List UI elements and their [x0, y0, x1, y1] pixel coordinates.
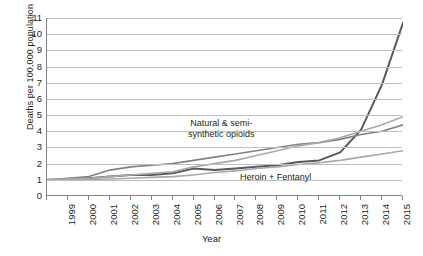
x-axis-title: Year	[0, 233, 423, 244]
y-axis-tick-label: 2	[26, 159, 42, 169]
gridline	[47, 147, 402, 148]
x-axis-tick-mark	[381, 196, 382, 200]
y-axis-tick-label: 11	[26, 13, 42, 23]
x-axis-tick-mark	[172, 196, 173, 200]
annotation-heroin-fentanyl: Heroin + Fentanyl	[240, 172, 311, 183]
y-axis-tick-label: 3	[26, 143, 42, 153]
x-axis-tick-mark	[276, 196, 277, 200]
x-axis-tick-mark	[234, 196, 235, 200]
x-axis-tick-mark	[151, 196, 152, 200]
y-axis-tick-label: 7	[26, 78, 42, 88]
gridline	[47, 50, 402, 51]
x-axis-tick-mark	[318, 196, 319, 200]
x-axis-tick-mark	[402, 196, 403, 200]
gridline	[47, 180, 402, 181]
x-axis-tick-mark	[88, 196, 89, 200]
y-axis-tick-label: 1	[26, 175, 42, 185]
y-axis-tick-label: 6	[26, 94, 42, 104]
x-axis-tick-mark	[193, 196, 194, 200]
y-axis-tick-label: 4	[26, 127, 42, 137]
x-axis-tick-mark	[255, 196, 256, 200]
x-axis-tick-mark	[360, 196, 361, 200]
x-axis-tick-mark	[214, 196, 215, 200]
gridline	[47, 83, 402, 84]
y-axis-tick-label: 9	[26, 46, 42, 56]
y-axis-tick-label: 10	[26, 29, 42, 39]
chart-container: Deaths per 100,000 population 1110987654…	[0, 0, 423, 256]
plot-area	[46, 18, 402, 196]
x-axis-tick-mark	[46, 196, 47, 200]
gridline	[47, 34, 402, 35]
gridline	[47, 164, 402, 165]
x-axis-tick-mark	[297, 196, 298, 200]
x-axis-tick-mark	[67, 196, 68, 200]
gridline	[47, 18, 402, 19]
annotation-natural-line1: Natural & semi-	[188, 118, 255, 129]
y-axis-tick-label: 5	[26, 110, 42, 120]
x-axis-tick-mark	[109, 196, 110, 200]
series-lines	[47, 18, 403, 196]
y-axis-tick-label: 8	[26, 62, 42, 72]
gridline	[47, 99, 402, 100]
annotation-natural-line2: synthetic opioids	[188, 129, 255, 140]
x-axis-tick-mark	[130, 196, 131, 200]
annotation-natural-semisynthetic: Natural & semi- synthetic opioids	[188, 118, 255, 140]
gridline	[47, 67, 402, 68]
x-axis-tick-mark	[339, 196, 340, 200]
gridline	[47, 115, 402, 116]
